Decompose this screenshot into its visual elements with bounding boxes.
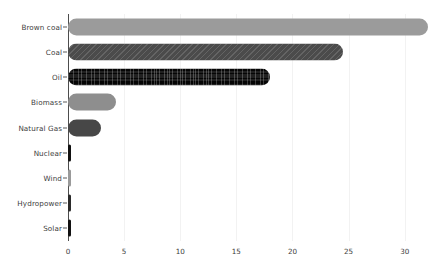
xtick-label-5: 5: [122, 247, 127, 256]
bar-biomass: [68, 94, 116, 111]
plot-area: [68, 14, 444, 241]
ytick-label-hydropower: Hydropower: [17, 199, 62, 208]
bar-wind: [68, 169, 71, 186]
ytick-label-wind: Wind: [44, 173, 62, 182]
bar-hydropower: [68, 195, 71, 212]
bar-brown-coal: [68, 18, 428, 35]
xtick-label-0: 0: [66, 247, 71, 256]
ytick-label-solar: Solar: [43, 224, 62, 233]
ytick-mark-2: [63, 77, 67, 78]
ytick-label-oil: Oil: [52, 73, 62, 82]
ytick-mark-1: [63, 51, 67, 52]
ytick-label-biomass: Biomass: [31, 98, 62, 107]
gridline-x-25: [349, 14, 350, 241]
ytick-mark-3: [63, 102, 67, 103]
ytick-label-natural-gas: Natural Gas: [18, 123, 62, 132]
ytick-mark-4: [63, 127, 67, 128]
ytick-mark-8: [63, 228, 67, 229]
bar-solar: [68, 220, 71, 237]
ytick-mark-7: [63, 203, 67, 204]
xtick-label-25: 25: [344, 247, 353, 256]
xtick-label-15: 15: [232, 247, 241, 256]
bar-oil: [68, 69, 270, 86]
xtick-label-30: 30: [400, 247, 409, 256]
ytick-label-nuclear: Nuclear: [34, 148, 62, 157]
bar-natural-gas: [68, 119, 101, 136]
ytick-mark-6: [63, 177, 67, 178]
ytick-mark-5: [63, 152, 67, 153]
ytick-label-brown-coal: Brown coal: [21, 22, 62, 31]
ytick-label-coal: Coal: [46, 47, 62, 56]
xtick-label-20: 20: [288, 247, 297, 256]
xtick-label-10: 10: [176, 247, 185, 256]
bar-nuclear: [68, 144, 71, 161]
ytick-mark-0: [63, 26, 67, 27]
bar-coal: [68, 43, 343, 60]
bar-chart: Brown coalCoalOilBiomassNatural GasNucle…: [0, 0, 444, 269]
gridline-x-30: [405, 14, 406, 241]
